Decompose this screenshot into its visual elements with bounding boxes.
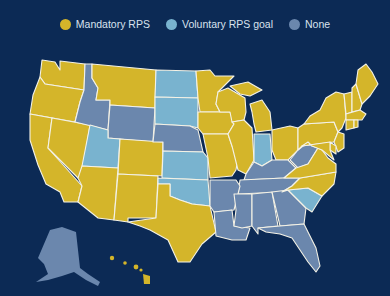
state-nd[interactable]	[155, 70, 198, 98]
us-map	[0, 0, 390, 296]
state-ak[interactable]	[36, 227, 100, 286]
state-sd[interactable]	[155, 97, 198, 128]
state-ks[interactable]	[162, 151, 208, 180]
state-fl[interactable]	[258, 224, 320, 272]
state-co[interactable]	[118, 139, 163, 176]
state-nm[interactable]	[114, 174, 158, 222]
state-ri[interactable]	[354, 120, 358, 128]
state-az[interactable]	[78, 166, 118, 220]
state-ms[interactable]	[234, 194, 252, 228]
state-ia[interactable]	[198, 112, 234, 134]
state-hi[interactable]	[110, 256, 150, 284]
state-vt[interactable]	[344, 92, 352, 114]
state-mi[interactable]	[250, 100, 272, 132]
state-wy[interactable]	[108, 105, 155, 142]
state-ct[interactable]	[346, 120, 354, 130]
